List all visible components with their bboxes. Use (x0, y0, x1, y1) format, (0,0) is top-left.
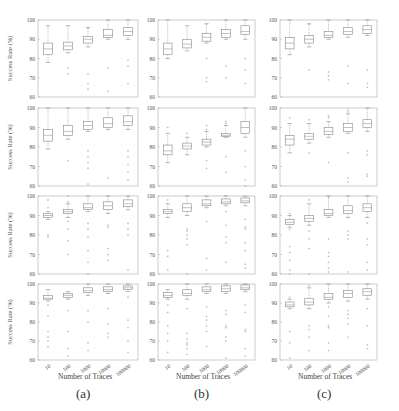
box-100000 (124, 20, 133, 85)
panel-r3-c2: 6070809010010100100010000100000 (269, 281, 377, 377)
axes-frame (158, 284, 255, 360)
box-100 (183, 196, 192, 275)
axes-frame (280, 108, 377, 186)
box-10000 (222, 196, 231, 263)
panel-r0-c0: 60708090100 (27, 17, 138, 100)
box-100 (305, 199, 314, 275)
box-1000 (84, 284, 93, 352)
box-100 (64, 26, 73, 75)
y-tick-label: 90 (30, 36, 36, 42)
panel-r0-c1: 60708090100 (147, 17, 255, 100)
caption-c: (c) (317, 386, 331, 402)
y-tick-label: 70 (30, 338, 36, 344)
box-100000 (124, 108, 133, 181)
y-tick-label: 80 (272, 319, 278, 325)
box-100 (64, 195, 73, 256)
y-tick-label: 100 (269, 281, 278, 287)
box-10 (44, 108, 53, 149)
y-tick-label: 70 (30, 75, 36, 81)
box-100000 (363, 284, 372, 350)
box-100000 (124, 284, 133, 353)
box-10 (163, 290, 172, 354)
box-10000 (222, 20, 231, 79)
y-tick-label: 80 (30, 232, 36, 238)
y-axis-label: Success Rate (%) (6, 36, 14, 81)
box-100000 (241, 284, 250, 357)
x-tick-label: 10 (163, 363, 171, 371)
box-10000 (344, 284, 353, 338)
box-10 (285, 213, 294, 275)
y-tick-label: 60 (30, 271, 36, 277)
y-tick-label: 100 (27, 17, 36, 23)
y-tick-label: 90 (30, 300, 36, 306)
x-tick-label: 100000 (354, 363, 371, 378)
box-1000 (84, 108, 93, 185)
box-10000 (104, 20, 113, 92)
y-tick-label: 60 (150, 357, 156, 363)
y-tick-label: 100 (147, 17, 156, 23)
box-10 (44, 26, 53, 63)
y-tick-label: 90 (150, 300, 156, 306)
y-tick-label: 70 (272, 252, 278, 258)
y-tick-label: 90 (272, 300, 278, 306)
box-1000 (202, 284, 211, 348)
box-1000 (84, 27, 93, 91)
y-axis-label: Success Rate (%) (6, 299, 14, 344)
y-tick-label: 60 (30, 357, 36, 363)
x-axis-label-c: Number of Traces (298, 372, 352, 381)
y-tick-label: 80 (150, 319, 156, 325)
y-tick-label: 90 (150, 125, 156, 131)
y-tick-label: 90 (272, 36, 278, 42)
box-1000 (324, 115, 333, 164)
y-axis-label: Success Rate (%) (6, 212, 14, 257)
y-tick-label: 90 (30, 213, 36, 219)
y-tick-label: 70 (150, 338, 156, 344)
box-100 (305, 23, 314, 71)
panel-r2-c1: 60708090100 (147, 193, 255, 277)
box-100000 (241, 196, 250, 269)
box-10 (285, 20, 294, 55)
panel-r2-c2: 60708090100 (269, 193, 377, 277)
y-tick-label: 100 (27, 193, 36, 199)
y-tick-label: 70 (30, 252, 36, 258)
box-100 (183, 284, 192, 355)
box-10 (44, 199, 53, 238)
box-100000 (363, 108, 372, 177)
y-tick-label: 60 (150, 183, 156, 189)
box-100 (64, 108, 73, 162)
box-1000 (202, 196, 211, 271)
x-axis-label-b: Number of Traces (176, 372, 230, 381)
box-1000 (202, 23, 211, 83)
x-tick-label: 10 (44, 363, 52, 371)
y-tick-label: 80 (272, 56, 278, 62)
y-tick-label: 60 (150, 94, 156, 100)
y-tick-label: 80 (30, 319, 36, 325)
panels-layer: 6070809010060708090100607080901006070809… (27, 17, 377, 377)
x-tick-label: 100000 (115, 363, 132, 378)
box-10000 (344, 20, 353, 85)
y-tick-label: 100 (269, 17, 278, 23)
y-tick-label: 70 (272, 164, 278, 170)
box-10000 (104, 196, 113, 261)
labels-layer: Success Rate (%)Success Rate (%)Success … (6, 36, 14, 345)
box-100000 (241, 108, 250, 187)
box-10 (163, 127, 172, 163)
box-10 (163, 199, 172, 271)
caption-a: (a) (76, 386, 90, 402)
y-tick-label: 80 (150, 144, 156, 150)
y-tick-label: 70 (272, 75, 278, 81)
box-10 (163, 20, 172, 59)
caption-b: (b) (194, 386, 209, 402)
box-100 (305, 119, 314, 154)
box-10 (44, 290, 53, 348)
panel-r3-c0: 6070809010010100100010000100000 (27, 281, 138, 377)
box-1000 (324, 20, 333, 81)
box-100 (64, 292, 73, 358)
panel-r1-c0: 60708090100 (27, 105, 138, 189)
y-tick-label: 70 (150, 252, 156, 258)
y-tick-label: 100 (269, 193, 278, 199)
y-tick-label: 80 (150, 232, 156, 238)
y-tick-label: 60 (272, 271, 278, 277)
y-tick-label: 60 (272, 94, 278, 100)
box-10000 (344, 109, 353, 183)
